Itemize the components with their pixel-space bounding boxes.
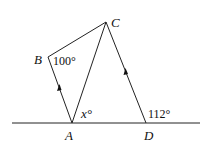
geometry-diagram: B C A D 100° x° 112° bbox=[0, 0, 207, 149]
segment-bc bbox=[48, 22, 106, 57]
label-d: D bbox=[143, 128, 154, 143]
angle-b: 100° bbox=[53, 54, 76, 68]
angle-a: x° bbox=[80, 106, 92, 121]
label-c: C bbox=[111, 15, 120, 30]
label-b: B bbox=[34, 52, 42, 67]
label-a: A bbox=[64, 128, 73, 143]
angle-d: 112° bbox=[148, 107, 171, 121]
